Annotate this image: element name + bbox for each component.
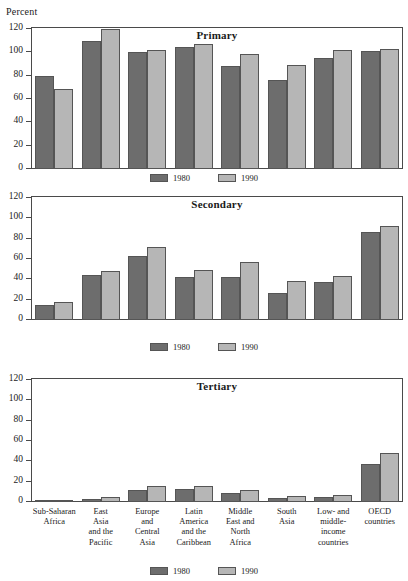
bar [54,89,73,170]
bar [175,489,194,502]
legend-swatch-1980 [150,343,168,351]
plot-area-tertiary: Tertiary [31,378,403,502]
y-axis-tick-label: 40 [0,453,23,466]
bar [35,500,54,502]
y-axis-tick-label: 40 [0,271,23,284]
bar [54,500,73,502]
bar [101,497,120,502]
chart-panel-primary: Primary02040608010012019801990 [0,27,408,209]
y-axis-tick-label: 20 [0,292,23,305]
y-axis-tick-label: 80 [0,231,23,244]
bar [221,277,240,320]
bar [35,305,54,320]
chart-title-primary: Primary [31,29,403,41]
x-axis-label-line: countries [353,517,408,527]
bar [314,58,333,169]
legend-swatch-1990 [218,174,236,182]
legend-label: 1980 [173,566,190,576]
y-axis-tick-label: 120 [0,21,23,34]
y-axis-tick-label: 60 [0,251,23,264]
x-axis-label-line: OECD [353,507,408,517]
legend-primary: 19801990 [0,173,408,183]
bar [333,50,352,169]
bar [361,232,380,320]
legend-item-1990[interactable]: 1990 [218,173,258,183]
legend-item-1990[interactable]: 1990 [218,566,258,576]
y-axis-tertiary: 020406080100120 [0,378,31,502]
bar [287,281,306,320]
bar [175,277,194,320]
bar [240,490,259,502]
chart-panel-secondary: Secondary02040608010012019801990 [0,196,408,360]
y-axis-tick-label: 120 [0,190,23,203]
bar [221,493,240,502]
legend-label: 1990 [241,173,258,183]
legend-swatch-1980 [150,567,168,575]
bar [175,47,194,170]
bar [287,65,306,169]
legend-item-1980[interactable]: 1980 [150,566,190,576]
bar [128,256,147,320]
legend-label: 1980 [173,173,190,183]
bar [54,302,73,320]
chart-title-tertiary: Tertiary [31,380,403,392]
bar [240,54,259,170]
legend-swatch-1980 [150,174,168,182]
x-axis-label-line: North [213,527,268,537]
x-axis-category-labels: Sub-SaharanAfricaEastAsiaand thePacificE… [31,507,403,555]
legend-item-1980[interactable]: 1980 [150,173,190,183]
bar [82,275,101,320]
y-axis-primary: 020406080100120 [0,27,31,169]
bar [361,51,380,169]
y-axis-tick-label: 0 [0,494,23,507]
bar [194,270,213,320]
bar [194,44,213,169]
y-axis-tick-label: 80 [0,413,23,426]
y-axis-tick-label: 100 [0,210,23,223]
bar [268,80,287,169]
bar [333,495,352,502]
bar [147,247,166,320]
plot-area-primary: Primary [31,27,403,169]
figure-root: Percent Primary02040608010012019801990 S… [0,0,408,581]
bar [147,486,166,502]
legend-label: 1990 [241,566,258,576]
y-axis-tick-label: 40 [0,114,23,127]
y-axis-tick-label: 60 [0,433,23,446]
bar [314,282,333,320]
bar [35,76,54,169]
y-axis-tick-label: 100 [0,44,23,57]
y-axis-tick-label: 0 [0,312,23,325]
bar [194,486,213,502]
bar [380,453,399,502]
bars-layer [31,27,403,169]
y-axis-tick-label: 20 [0,474,23,487]
legend-label: 1980 [173,342,190,352]
y-axis-tick-label: 120 [0,372,23,385]
bar [268,293,287,320]
y-axis-tick-label: 60 [0,91,23,104]
bar [82,499,101,502]
y-axis-tick-label: 80 [0,68,23,81]
bar [380,49,399,169]
bar [128,52,147,169]
bar [361,464,380,502]
legend-item-1990[interactable]: 1990 [218,342,258,352]
legend-item-1980[interactable]: 1980 [150,342,190,352]
x-axis-label-7: OECDcountries [353,507,408,527]
bar [380,226,399,320]
x-axis-label-line: Africa [213,538,268,548]
bar [82,41,101,169]
x-axis-label-line: income [306,527,361,537]
legend-tertiary: 19801990 [0,566,408,576]
bar [147,50,166,169]
legend-swatch-1990 [218,567,236,575]
legend-label: 1990 [241,342,258,352]
bar [314,497,333,502]
bars-layer [31,196,403,320]
bar [221,66,240,169]
chart-title-secondary: Secondary [31,198,403,210]
legend-secondary: 19801990 [0,342,408,352]
bar [101,29,120,169]
y-axis-unit-label: Percent [6,6,37,18]
